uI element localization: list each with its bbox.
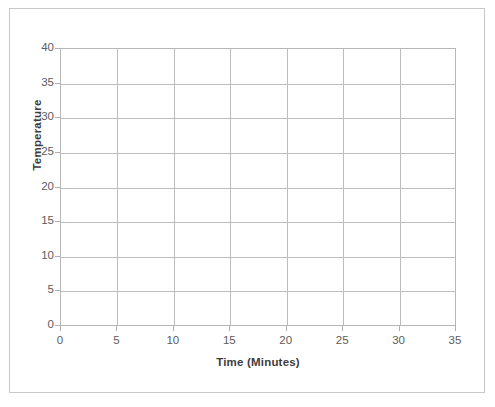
gridline-horizontal <box>61 257 455 258</box>
gridline-horizontal <box>61 118 455 119</box>
y-tick-mark <box>55 290 60 291</box>
gridline-vertical <box>343 49 344 325</box>
gridline-vertical <box>287 49 288 325</box>
figure-frame: 0510152025303540 05101520253035 Temperat… <box>9 8 485 393</box>
scan-artifact-text <box>14 0 314 4</box>
y-tick-mark <box>55 117 60 118</box>
x-axis-tick-labels: 05101520253035 <box>60 335 456 353</box>
y-tick-mark <box>55 48 60 49</box>
x-tick-label: 25 <box>336 335 349 347</box>
x-tick-label: 20 <box>279 335 292 347</box>
x-tick-mark <box>455 326 456 331</box>
gridline-vertical <box>230 49 231 325</box>
y-axis-title: Temperature <box>31 80 43 190</box>
x-tick-mark <box>286 326 287 331</box>
gridline-horizontal <box>61 188 455 189</box>
y-tick-label: 10 <box>28 250 54 262</box>
y-tick-mark <box>55 256 60 257</box>
gridline-horizontal <box>61 291 455 292</box>
y-tick-label: 15 <box>28 215 54 227</box>
gridline-vertical <box>400 49 401 325</box>
gridline-horizontal <box>61 222 455 223</box>
x-tick-label: 35 <box>449 335 462 347</box>
gridline-horizontal <box>61 153 455 154</box>
y-tick-label: 40 <box>28 42 54 54</box>
x-tick-label: 5 <box>113 335 119 347</box>
x-tick-mark <box>229 326 230 331</box>
x-axis-title: Time (Minutes) <box>60 356 456 368</box>
y-tick-mark <box>55 221 60 222</box>
gridline-vertical <box>117 49 118 325</box>
x-tick-label: 30 <box>392 335 405 347</box>
x-tick-mark <box>342 326 343 331</box>
x-tick-mark <box>173 326 174 331</box>
x-tick-label: 15 <box>223 335 236 347</box>
x-tick-mark <box>399 326 400 331</box>
y-tick-mark <box>55 83 60 84</box>
x-tick-label: 0 <box>57 335 63 347</box>
chart-area: 0510152025303540 05101520253035 Temperat… <box>10 9 486 394</box>
y-tick-mark <box>55 187 60 188</box>
gridline-vertical <box>174 49 175 325</box>
y-tick-label: 0 <box>28 319 54 331</box>
gridline-horizontal <box>61 84 455 85</box>
x-tick-mark <box>116 326 117 331</box>
x-tick-mark <box>60 326 61 331</box>
y-tick-label: 5 <box>28 285 54 297</box>
x-tick-label: 10 <box>166 335 179 347</box>
plot-area <box>60 48 456 326</box>
y-tick-mark <box>55 152 60 153</box>
